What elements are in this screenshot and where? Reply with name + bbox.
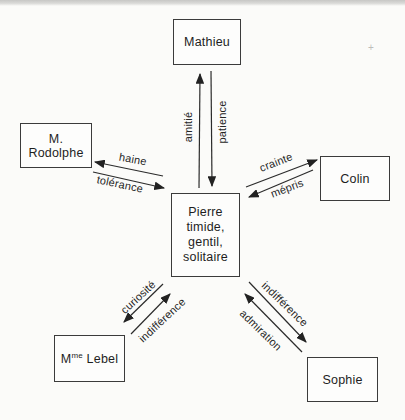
node-colin: Colin xyxy=(320,156,390,201)
relation-label-amitie: amitié xyxy=(182,112,194,143)
node-sophie-label: Sophie xyxy=(322,373,362,387)
node-pierre-trait1: timide, xyxy=(186,220,224,235)
node-lebel-superscript: me xyxy=(71,350,83,359)
node-colin-label: Colin xyxy=(340,172,370,186)
node-rodolphe-label: M. Rodolphe xyxy=(21,132,91,160)
node-rodolphe: M. Rodolphe xyxy=(20,123,92,168)
relationship-diagram: + Mathieu M. Rodolphe Colin Pierr xyxy=(0,0,405,420)
node-lebel: Mme Lebel xyxy=(54,335,125,382)
relation-label-patience: patience xyxy=(216,100,228,143)
node-pierre: Pierre timide, gentil, solitaire xyxy=(171,193,240,277)
node-lebel-surname: Lebel xyxy=(83,352,118,366)
node-pierre-trait3: solitaire xyxy=(183,250,228,265)
node-lebel-label: Mme Lebel xyxy=(61,352,118,366)
node-pierre-trait2: gentil, xyxy=(188,235,223,250)
node-mathieu: Mathieu xyxy=(173,19,241,65)
node-lebel-prefix: M xyxy=(61,352,72,366)
node-mathieu-label: Mathieu xyxy=(184,35,230,49)
node-pierre-name: Pierre xyxy=(188,205,223,220)
arrow-mathieu-to-pierre xyxy=(211,71,212,186)
arrow-pierre-to-mathieu xyxy=(199,74,200,188)
node-sophie: Sophie xyxy=(307,357,378,402)
